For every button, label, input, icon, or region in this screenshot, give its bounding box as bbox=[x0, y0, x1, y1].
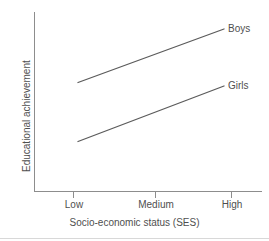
series-line-girls bbox=[78, 86, 224, 142]
series-label-girls: Girls bbox=[228, 81, 249, 91]
x-tick-label-high: High bbox=[209, 200, 255, 210]
y-axis-title: Educational achievement bbox=[22, 60, 32, 172]
x-tick-label-medium: Medium bbox=[128, 200, 184, 210]
chart-container: Educational achievement Low Medium High … bbox=[0, 0, 269, 241]
series-label-boys: Boys bbox=[228, 24, 250, 34]
series-line-boys bbox=[78, 29, 224, 83]
x-axis-title: Socio-economic status (SES) bbox=[0, 218, 269, 228]
x-tick-label-low: Low bbox=[53, 200, 95, 210]
